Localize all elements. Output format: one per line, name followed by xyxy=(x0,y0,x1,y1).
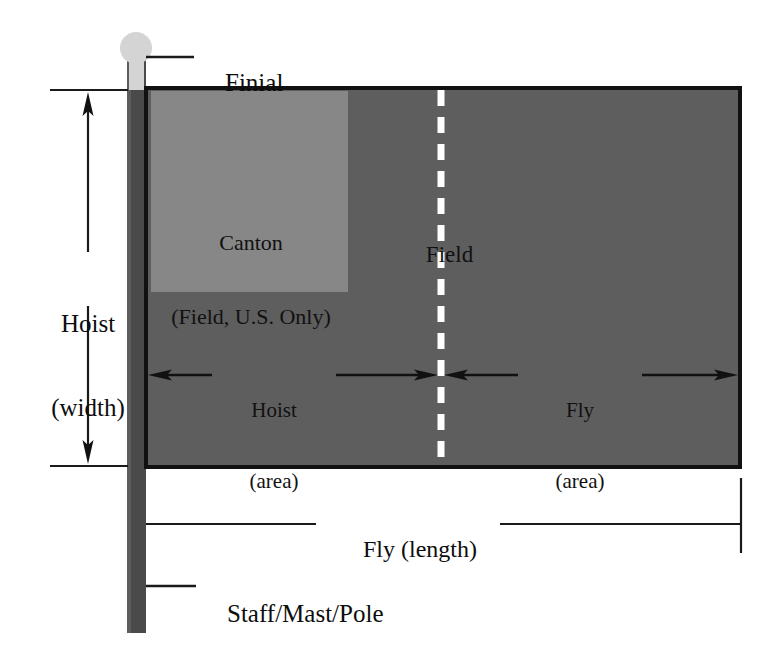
staff-text: Staff/Mast/Pole xyxy=(227,600,383,627)
fly-length-text: Fly (length) xyxy=(363,536,477,562)
finial-icon xyxy=(120,32,152,64)
label-hoist-area: Hoist (area) xyxy=(214,352,334,540)
flag-diagram: Finial Hoist (width) Canton (Field, U.S.… xyxy=(0,0,776,668)
label-hoist-width: Hoist (width) xyxy=(28,254,148,478)
label-field: Field xyxy=(378,216,498,293)
canton-line1: Canton xyxy=(158,231,344,256)
fly-area-line1: Fly xyxy=(520,399,640,423)
field-text: Field xyxy=(426,242,473,267)
fly-area-line2: (area) xyxy=(520,470,640,494)
label-fly-area: Fly (area) xyxy=(520,352,640,540)
hoist-width-line2: (width) xyxy=(28,394,148,422)
label-canton: Canton (Field, U.S. Only) xyxy=(158,182,344,379)
canton-line2: (Field, U.S. Only) xyxy=(158,305,344,330)
finial-text: Finial xyxy=(225,69,283,96)
hoist-area-line1: Hoist xyxy=(214,399,334,423)
label-finial: Finial xyxy=(200,41,283,125)
hoist-area-line2: (area) xyxy=(214,470,334,494)
label-staff: Staff/Mast/Pole xyxy=(202,572,383,656)
hoist-width-line1: Hoist xyxy=(28,310,148,338)
